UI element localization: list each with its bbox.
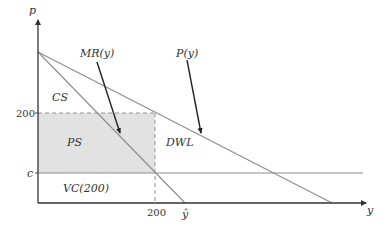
monopoly-diagram: p y 200 c 200 ŷ MR(y) P(y) CS PS DWL VC(…	[0, 0, 390, 230]
price-pointer-arrow	[187, 60, 201, 133]
ps-label: PS	[66, 136, 82, 149]
x-axis-label: y	[366, 204, 374, 217]
x-tick-label-200: 200	[147, 207, 166, 218]
y-tick-label-c: c	[27, 167, 33, 180]
cs-label: CS	[52, 91, 68, 104]
x-tick-label-yhat: ŷ	[181, 208, 189, 221]
mr-curve-label: MR(y)	[79, 47, 114, 60]
y-tick-label-200: 200	[16, 108, 35, 119]
producer-surplus-region	[38, 113, 155, 173]
y-axis-label: p	[29, 4, 36, 17]
vc-label: VC(200)	[63, 182, 109, 195]
dwl-label: DWL	[165, 136, 193, 149]
price-curve-label: P(y)	[175, 47, 198, 60]
